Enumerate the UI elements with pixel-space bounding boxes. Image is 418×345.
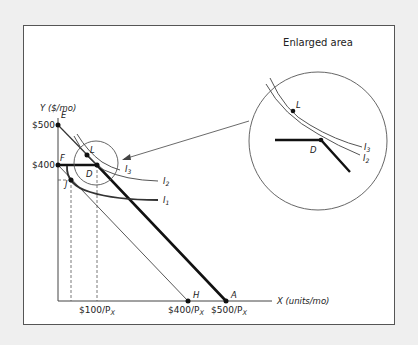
pointer-arrow <box>124 121 249 159</box>
point-f <box>56 163 61 168</box>
label-h: H <box>193 290 200 300</box>
x-tick-400: $400/PX <box>168 305 204 317</box>
x-tick-500: $500/PX <box>211 305 247 317</box>
point-j <box>69 178 74 183</box>
label-e: E <box>61 110 67 120</box>
label-j: J <box>63 179 68 189</box>
y-tick-500: $500 <box>32 120 55 130</box>
enlarged-label-l: L <box>296 100 301 110</box>
point-d <box>95 163 100 168</box>
enlarged-curve-i3 <box>270 78 362 147</box>
arrow-head-icon <box>122 154 131 160</box>
y-tick-400: $400 <box>32 160 55 170</box>
point-e <box>56 123 61 128</box>
x-axis-label: X (units/mo) <box>276 296 329 306</box>
enlarged-point-l <box>291 109 296 114</box>
label-d: D <box>86 169 93 179</box>
diagram-canvas: Enlarged area Y ($/mo) X (units/mo) $500… <box>0 0 418 345</box>
point-a <box>224 299 229 304</box>
budget-line-kinked-fda <box>58 165 226 301</box>
enlarged-label-i3: I3 <box>364 142 371 153</box>
label-i3: I3 <box>125 164 132 175</box>
point-h <box>186 299 191 304</box>
label-l: L <box>90 145 95 155</box>
y-axis-label: Y ($/mo) <box>40 103 76 113</box>
enlarged-point-d <box>319 138 324 143</box>
label-i2: I2 <box>163 176 170 187</box>
x-tick-100: $100/PX <box>79 305 115 317</box>
enlarged-label-i2: I2 <box>363 153 370 164</box>
point-l <box>85 153 90 158</box>
label-f: F <box>60 153 65 163</box>
label-a: A <box>230 290 237 300</box>
enlarged-area-title: Enlarged area <box>283 37 353 48</box>
enlarged-label-d: D <box>310 145 317 155</box>
label-i1: I1 <box>163 195 169 206</box>
